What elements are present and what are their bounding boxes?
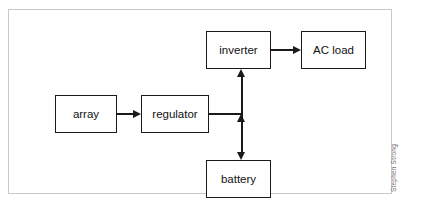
- arrowhead-inverter-to-acload-icon: [293, 46, 301, 54]
- photo-credit: Stephen Strong: [390, 144, 397, 192]
- arrowhead-array-to-regulator-icon: [133, 110, 141, 118]
- arrowhead-battery-to-bus-icon: [237, 114, 245, 122]
- figure-canvas: array regulator inverter AC load battery…: [0, 0, 425, 202]
- block-ac-load: AC load: [301, 31, 366, 69]
- block-battery: battery: [206, 160, 271, 198]
- block-array: array: [55, 95, 117, 133]
- connector-bus-to-inverter: [241, 76, 243, 114]
- credit-rail: Stephen Strong: [393, 9, 425, 194]
- block-regulator: regulator: [141, 95, 209, 133]
- connector-array-to-regulator: [117, 113, 134, 115]
- figure-frame: array regulator inverter AC load battery: [8, 9, 392, 194]
- block-regulator-label: regulator: [152, 108, 197, 120]
- arrowhead-bus-to-battery-icon: [237, 152, 245, 160]
- block-inverter-label: inverter: [219, 44, 257, 56]
- block-ac-load-label: AC load: [313, 44, 354, 56]
- connector-inverter-to-acload: [271, 49, 294, 51]
- arrowhead-bus-to-inverter-icon: [237, 69, 245, 77]
- block-array-label: array: [73, 108, 99, 120]
- block-inverter: inverter: [206, 31, 271, 69]
- block-battery-label: battery: [221, 173, 256, 185]
